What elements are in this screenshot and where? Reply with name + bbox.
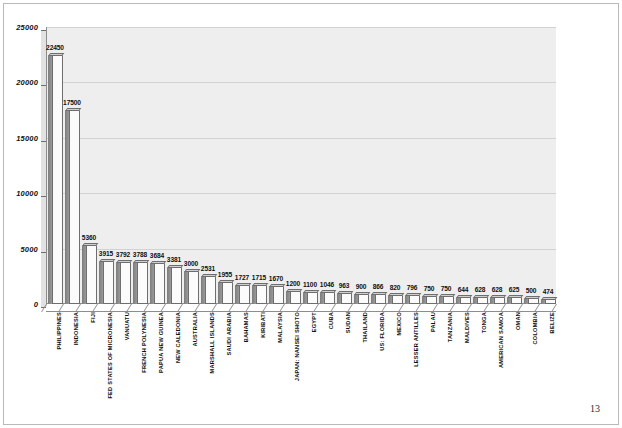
x-axis-category-label: CUBA bbox=[328, 312, 334, 329]
x-axis-category-label: EGYPT bbox=[311, 312, 317, 332]
bar-top-face bbox=[65, 108, 81, 111]
bar bbox=[48, 55, 63, 304]
bar-front-face bbox=[341, 293, 352, 304]
bar-front-face bbox=[137, 262, 148, 304]
bar-top-face bbox=[456, 295, 472, 298]
bar bbox=[303, 292, 318, 304]
x-axis-category-label: NEW CALEDONIA bbox=[175, 312, 181, 363]
bar-front-face bbox=[324, 292, 335, 304]
bar-chart: 25000 20000 15000 10000 5000 0 224501750… bbox=[0, 0, 622, 428]
bar bbox=[167, 267, 182, 304]
x-axis-category-label: INDONESIA bbox=[73, 312, 79, 345]
bar-front-face bbox=[392, 295, 403, 304]
bar bbox=[65, 110, 80, 304]
y-tick-label-25000: 25000 bbox=[16, 23, 38, 32]
x-axis-category-label: FIJI bbox=[90, 312, 96, 323]
bar-top-face bbox=[490, 295, 506, 298]
bar-front-face bbox=[273, 286, 284, 305]
bar-value-label: 5360 bbox=[77, 234, 102, 241]
bar-front-face bbox=[52, 55, 63, 304]
bar-top-face bbox=[337, 291, 353, 294]
y-tick-label-5000: 5000 bbox=[21, 245, 39, 254]
bar-front-face bbox=[409, 295, 420, 304]
bar bbox=[473, 297, 488, 304]
bar-top-face bbox=[235, 283, 251, 286]
bar bbox=[371, 294, 386, 304]
bar-top-face bbox=[507, 295, 523, 298]
bar-top-face bbox=[405, 293, 421, 296]
bar-front-face bbox=[256, 285, 267, 304]
bar-front-face bbox=[358, 294, 369, 304]
bar-top-face bbox=[422, 294, 438, 297]
bar-top-face bbox=[371, 292, 387, 295]
bar bbox=[133, 262, 148, 304]
x-axis-category-label: MALAYSIA bbox=[277, 312, 283, 343]
bar-series: 2245017500536039153792378836843381300025… bbox=[46, 27, 556, 304]
bar bbox=[99, 261, 114, 304]
page-number: 13 bbox=[590, 403, 600, 414]
y-tick-label-15000: 15000 bbox=[16, 134, 38, 143]
y-axis: 25000 20000 15000 10000 5000 0 bbox=[0, 0, 44, 428]
x-axis-category-label: FRENCH POLYNESIA bbox=[141, 312, 147, 373]
bar-top-face bbox=[133, 260, 149, 263]
x-axis-category-label: PAPUA NEW GUINEA bbox=[158, 312, 164, 373]
bar bbox=[456, 297, 471, 304]
bar-front-face bbox=[290, 291, 301, 304]
bar-front-face bbox=[222, 282, 233, 304]
bar-front-face bbox=[205, 276, 216, 304]
x-axis-category-label: SUDAN bbox=[345, 312, 351, 333]
bar-top-face bbox=[439, 294, 455, 297]
bar-top-face bbox=[286, 289, 302, 292]
bar bbox=[507, 297, 522, 304]
bar bbox=[405, 295, 420, 304]
bar-top-face bbox=[541, 297, 557, 300]
bar bbox=[354, 294, 369, 304]
bar-front-face bbox=[188, 271, 199, 304]
bar bbox=[337, 293, 352, 304]
bar-top-face bbox=[303, 290, 319, 293]
bar bbox=[388, 295, 403, 304]
bar-front-face bbox=[120, 262, 131, 304]
bar bbox=[320, 292, 335, 304]
bar-top-face bbox=[388, 293, 404, 296]
x-axis-category-label: BAHAMAS bbox=[243, 312, 249, 342]
y-tick-label-20000: 20000 bbox=[16, 78, 38, 87]
bar-top-face bbox=[252, 283, 268, 286]
bar-front-face bbox=[375, 294, 386, 304]
bar bbox=[116, 262, 131, 304]
bar bbox=[150, 263, 165, 304]
x-axis-category-label: OMAN bbox=[515, 312, 521, 330]
bar bbox=[252, 285, 267, 304]
bar bbox=[218, 282, 233, 304]
bar bbox=[201, 276, 216, 304]
bar bbox=[286, 291, 301, 304]
bar-front-face bbox=[307, 292, 318, 304]
x-axis-category-label: PALAU bbox=[430, 312, 436, 332]
bar-top-face bbox=[48, 53, 64, 56]
bar-value-label: 474 bbox=[536, 288, 561, 295]
bar-front-face bbox=[103, 261, 114, 304]
x-axis-category-label: TANZANIA bbox=[447, 312, 453, 342]
bar-front-face bbox=[511, 297, 522, 304]
bar-front-face bbox=[239, 285, 250, 304]
bar-top-face bbox=[82, 243, 98, 246]
x-axis-category-label: LESSER ANTILLES bbox=[413, 312, 419, 367]
x-axis-category-label: MEXICO bbox=[396, 312, 402, 336]
bar bbox=[269, 286, 284, 305]
bar-top-face bbox=[116, 260, 132, 263]
bar-value-label: 17500 bbox=[60, 99, 85, 106]
bar bbox=[184, 271, 199, 304]
x-axis-category-label: MARSHALL ISLANDS bbox=[209, 312, 215, 373]
x-axis-category-label: MALDIVES bbox=[464, 312, 470, 343]
x-axis-category-label: US: FLORIDA bbox=[379, 312, 385, 351]
bar bbox=[422, 296, 437, 304]
x-axis-labels: PHILIPPINESINDONESIAFIJIFED STATES OF MI… bbox=[46, 312, 561, 412]
bar bbox=[490, 297, 505, 304]
bar-top-face bbox=[320, 290, 336, 293]
bar-front-face bbox=[477, 297, 488, 304]
x-axis-category-label: FED STATES OF MICRONESIA bbox=[107, 312, 113, 399]
x-axis-category-label: THAILAND bbox=[362, 312, 368, 343]
x-axis-category-label: JAPAN: NANSEI SHOTO bbox=[294, 312, 300, 381]
x-axis-category-label: TONGA bbox=[481, 312, 487, 333]
x-axis-category-label: VANUATU bbox=[124, 312, 130, 340]
